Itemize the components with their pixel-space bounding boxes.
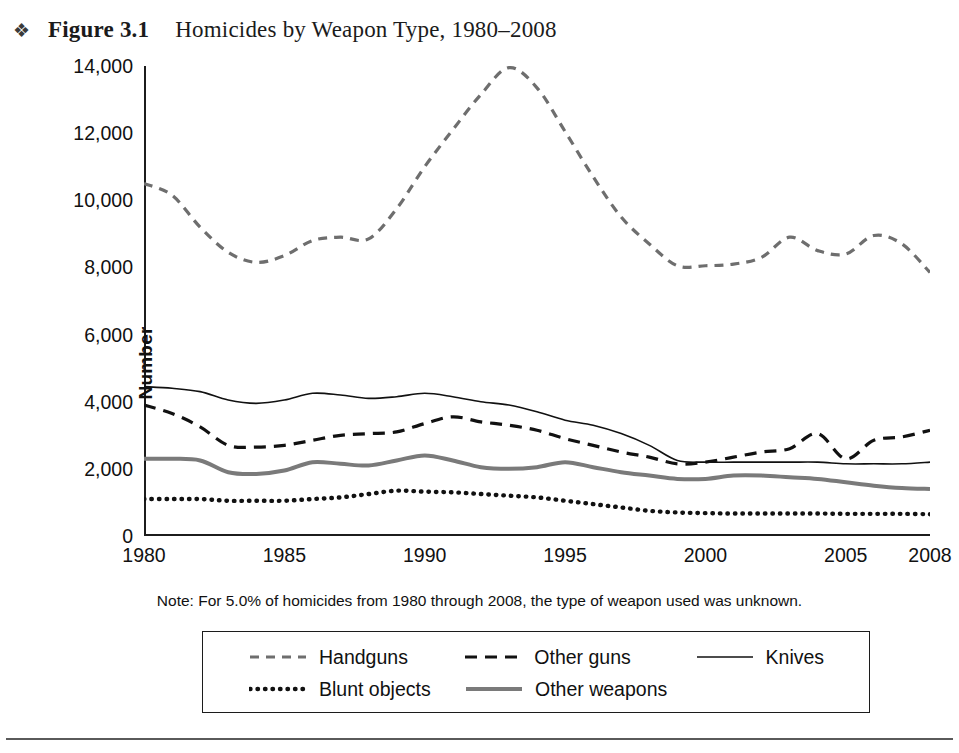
page-bottom-rule <box>6 738 953 740</box>
legend-swatch-handguns <box>249 650 307 664</box>
legend-item-knives: Knives <box>696 646 869 669</box>
series-line-blunt-objects <box>144 491 930 515</box>
chart-lines-svg <box>144 66 930 536</box>
series-line-knives <box>144 387 930 464</box>
series-line-handguns <box>144 68 930 273</box>
series-line-other-guns <box>144 405 930 464</box>
x-tick-label: 2005 <box>824 544 867 567</box>
figure-title: Homicides by Weapon Type, 1980–2008 <box>175 17 557 43</box>
y-tick-label: 8,000 <box>84 256 133 279</box>
legend-swatch-other-weapons <box>465 682 523 696</box>
y-tick-label: 4,000 <box>84 390 133 413</box>
figure-header: ❖ Figure 3.1 Homicides by Weapon Type, 1… <box>0 8 959 52</box>
legend-item-handguns: Handguns <box>203 646 464 669</box>
legend-swatch-other-guns <box>464 650 522 664</box>
legend-item-other-weapons: Other weapons <box>465 678 697 701</box>
legend-item-other-guns: Other guns <box>464 646 695 669</box>
x-tick-label: 1980 <box>122 544 165 567</box>
legend-label-blunt-objects: Blunt objects <box>319 678 431 701</box>
y-tick-label: 2,000 <box>84 457 133 480</box>
figure-number-label: Figure 3.1 <box>48 17 149 43</box>
chart-legend: Handguns Other guns Knives Blunt objects… <box>202 631 870 713</box>
legend-row-1: Handguns Other guns Knives <box>203 641 869 673</box>
x-tick-label: 2008 <box>908 544 951 567</box>
y-tick-label: 12,000 <box>73 122 133 145</box>
legend-label-other-guns: Other guns <box>534 646 630 669</box>
y-tick-label: 6,000 <box>84 323 133 346</box>
legend-item-blunt-objects: Blunt objects <box>203 678 465 701</box>
y-tick-label: 14,000 <box>73 55 133 78</box>
x-tick-label: 2000 <box>684 544 727 567</box>
y-tick-label: 10,000 <box>73 189 133 212</box>
y-axis-title: Number <box>135 303 157 423</box>
legend-label-knives: Knives <box>766 646 825 669</box>
chart-plot-area: Number 02,0004,0006,0008,00010,00012,000… <box>144 66 930 536</box>
x-tick-label: 1995 <box>543 544 586 567</box>
legend-row-2: Blunt objects Other weapons <box>203 673 869 705</box>
x-tick-label: 1985 <box>263 544 306 567</box>
legend-swatch-knives <box>696 650 754 664</box>
legend-label-handguns: Handguns <box>319 646 408 669</box>
series-line-other-weapons <box>144 455 930 489</box>
chart-note: Note: For 5.0% of homicides from 1980 th… <box>0 592 959 610</box>
x-tick-label: 1990 <box>403 544 446 567</box>
diamond-bullet-icon: ❖ <box>8 21 34 40</box>
legend-label-other-weapons: Other weapons <box>535 678 667 701</box>
legend-swatch-blunt-objects <box>249 682 307 696</box>
